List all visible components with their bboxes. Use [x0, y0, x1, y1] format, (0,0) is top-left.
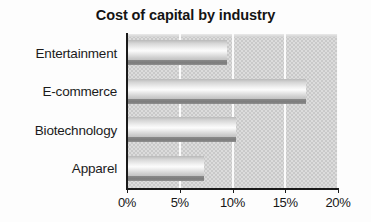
bar-slot	[127, 34, 338, 73]
category-label-apparel: Apparel	[0, 150, 122, 189]
bar-chart: Cost of capital by industry Entertainmen…	[0, 0, 371, 222]
bar-biotechnology[interactable]	[127, 117, 236, 137]
bar-apparel[interactable]	[127, 156, 204, 176]
category-label-ecommerce: E-commerce	[0, 73, 122, 112]
bar-shadow	[127, 176, 204, 181]
chart-title: Cost of capital by industry	[0, 7, 371, 23]
bar-slot	[127, 150, 338, 189]
tick-0	[127, 188, 128, 193]
tick-label-20: 20%	[315, 195, 361, 210]
y-axis-line	[126, 33, 128, 190]
tick-20	[338, 188, 339, 193]
category-label-entertainment: Entertainment	[0, 34, 122, 73]
tick-label-5: 5%	[157, 195, 203, 210]
tick-label-0: 0%	[104, 195, 150, 210]
bar-shadow	[127, 99, 306, 104]
bar-e-commerce[interactable]	[127, 79, 306, 99]
bar-entertainment[interactable]	[127, 40, 227, 60]
bar-slot	[127, 111, 338, 150]
tick-15	[285, 188, 286, 193]
category-label-biotechnology: Biotechnology	[0, 111, 122, 150]
tick-label-10: 10%	[210, 195, 256, 210]
bar-shadow	[127, 60, 227, 65]
tick-10	[233, 188, 234, 193]
category-axis: Entertainment E-commerce Biotechnology A…	[0, 34, 122, 188]
bar-shadow	[127, 137, 236, 142]
plot-area	[127, 34, 338, 188]
bar-slot	[127, 73, 338, 112]
tick-5	[180, 188, 181, 193]
tick-label-15: 15%	[262, 195, 308, 210]
